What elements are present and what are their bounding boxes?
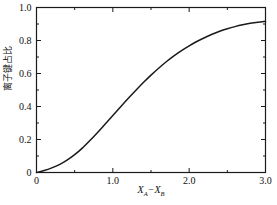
- x-tick-label: 0: [24, 175, 50, 186]
- data-curve: [37, 21, 266, 172]
- y-tick-label: 0.4: [6, 101, 32, 112]
- x-axis-label: XA−XB: [36, 184, 266, 197]
- x-tick-label: 1.0: [100, 175, 126, 186]
- x-tick-label: 2.0: [176, 175, 202, 186]
- chart-figure: 离子键占比 XA−XB 00.20.40.60.81.0 01.02.03.0: [0, 0, 276, 205]
- ionic-character-curve: [37, 21, 266, 172]
- plot-border: [37, 8, 266, 173]
- x-tick-label: 3.0: [253, 175, 277, 186]
- y-tick-label: 0.6: [6, 68, 32, 79]
- y-tick-label: 0.2: [6, 134, 32, 145]
- y-tick-label: 1.0: [6, 2, 32, 13]
- axis-ticks: [37, 8, 266, 173]
- y-tick-label: 0.8: [6, 35, 32, 46]
- x-axis-label-sub-b: B: [160, 190, 164, 197]
- plot-frame: [37, 8, 266, 173]
